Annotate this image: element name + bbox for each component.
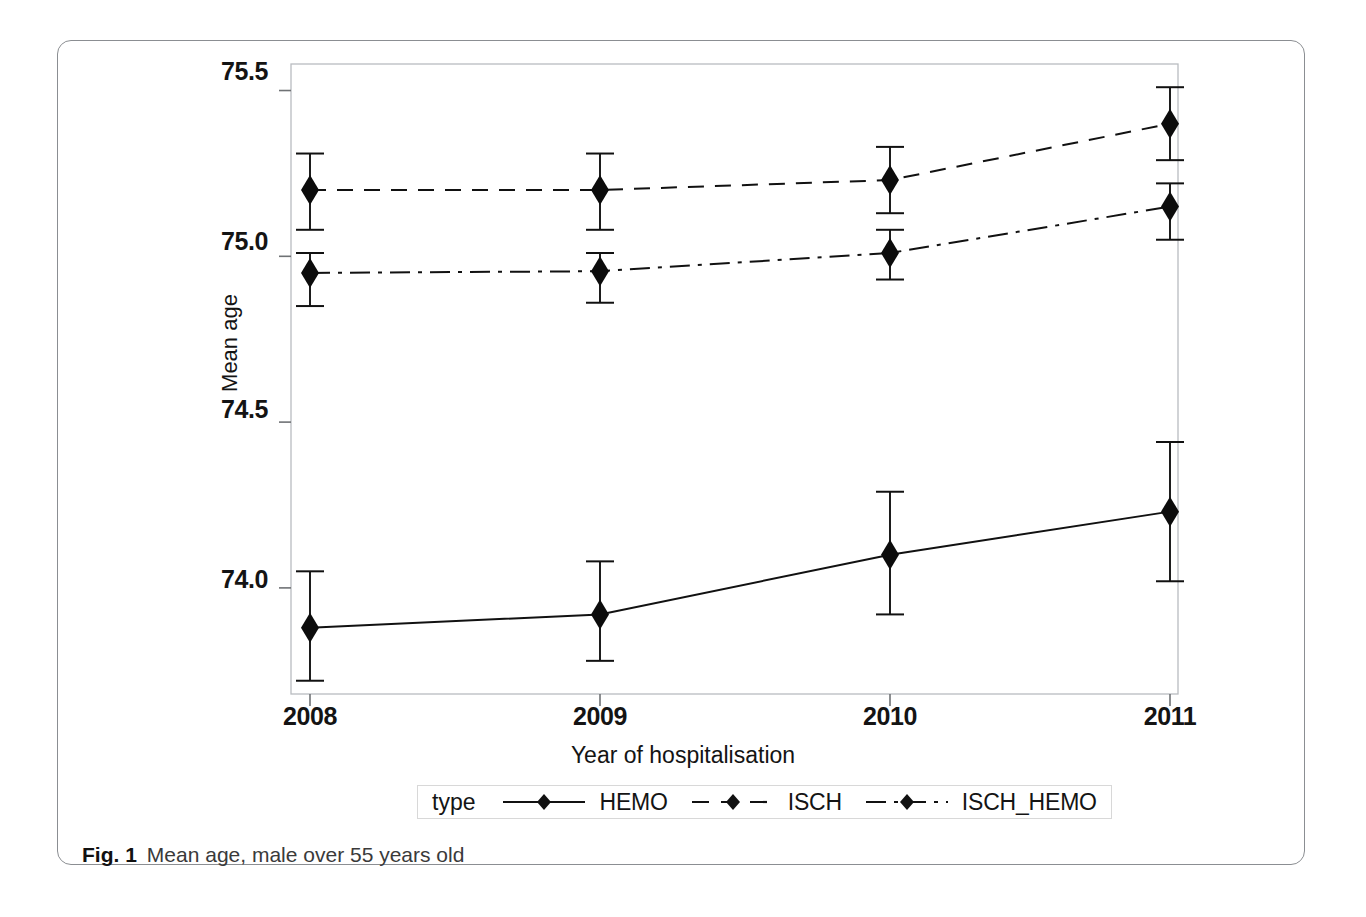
x-tick-label: 2008 — [255, 702, 365, 731]
legend-swatch-dashed-icon — [690, 791, 776, 813]
x-axis-title: Year of hospitalisation — [0, 742, 1366, 769]
legend-entry-hemo[interactable]: HEMO — [501, 789, 667, 816]
legend-swatch-dashdot-icon — [864, 791, 950, 813]
x-tick-label: 2009 — [545, 702, 655, 731]
legend-label: ISCH — [788, 789, 842, 816]
legend-swatch-solid-icon — [501, 791, 587, 813]
x-tick-label: 2011 — [1115, 702, 1225, 731]
chart-legend: type HEMO ISCH ISCH_HEMO — [417, 785, 1112, 819]
legend-label: ISCH_HEMO — [962, 789, 1097, 816]
legend-entry-isch-hemo[interactable]: ISCH_HEMO — [864, 789, 1097, 816]
caption-text: Mean age, male over 55 years old — [147, 843, 465, 866]
legend-title: type — [432, 789, 475, 816]
caption-label: Fig. 1 — [82, 843, 137, 866]
y-tick-label: 75.0 — [178, 227, 268, 256]
x-tick-label: 2010 — [835, 702, 945, 731]
legend-label: HEMO — [599, 789, 667, 816]
y-tick-label: 74.0 — [178, 565, 268, 594]
figure-caption: Fig. 1Mean age, male over 55 years old — [82, 843, 464, 867]
y-tick-label: 75.5 — [178, 57, 268, 86]
y-axis-title: Mean age — [217, 263, 243, 423]
legend-entry-isch[interactable]: ISCH — [690, 789, 842, 816]
